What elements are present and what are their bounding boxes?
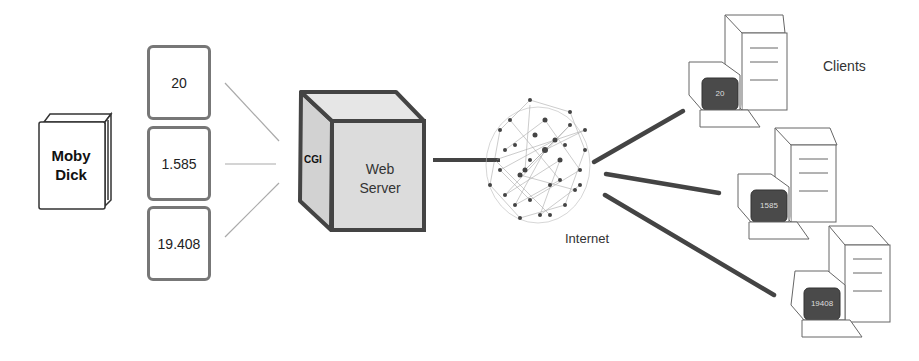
- client-computer-3: [791, 226, 890, 337]
- client-computer-2: [738, 128, 837, 239]
- internet-label: Internet: [565, 231, 609, 246]
- counter-value: 19.408: [158, 236, 201, 252]
- book-title-line2: Dick: [40, 165, 102, 184]
- counter-box-1: 20: [147, 45, 211, 120]
- client-screen-3: 19408: [804, 299, 840, 308]
- counter-value: 1.585: [161, 156, 196, 172]
- counter-value: 20: [171, 75, 187, 91]
- diagram-canvas: [0, 0, 919, 361]
- client-computer-1: [689, 15, 787, 127]
- counter-box-2: 1.585: [147, 126, 211, 201]
- counter-links: [225, 83, 279, 237]
- cgi-label: CGI: [304, 154, 322, 165]
- web-server-label: Web Server: [335, 160, 425, 198]
- internet-network-icon: [486, 98, 590, 223]
- book-title: Moby Dick: [40, 146, 102, 184]
- clients-label: Clients: [823, 58, 866, 74]
- client-screen-1: 20: [702, 89, 738, 98]
- web-server-line1: Web: [335, 160, 425, 179]
- web-server-line2: Server: [335, 179, 425, 198]
- book-title-line1: Moby: [40, 146, 102, 165]
- counter-box-3: 19.408: [147, 206, 211, 281]
- client-screen-2: 1585: [751, 201, 787, 210]
